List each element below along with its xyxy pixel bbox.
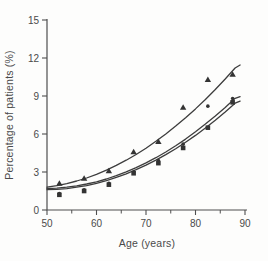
square-marker	[131, 171, 136, 176]
y-axis-title: Percentage of patients (%)	[3, 50, 15, 180]
square-marker	[181, 146, 186, 151]
scatter-chart: 036912155060708090 Percentage of patient…	[0, 0, 268, 261]
square-marker	[107, 182, 112, 187]
x-axis-title: Age (years)	[119, 237, 175, 249]
triangle-marker	[205, 76, 211, 82]
circle-marker	[231, 97, 235, 101]
x-axis-tick-label: 80	[190, 218, 202, 229]
y-axis-tick-label: 15	[28, 15, 40, 26]
circle-marker	[206, 104, 210, 108]
square-marker	[57, 193, 62, 198]
y-axis-tick-label: 3	[33, 167, 39, 178]
trend-line-circle	[47, 97, 240, 189]
x-axis-tick-label: 90	[239, 218, 251, 229]
circle-marker	[181, 142, 185, 146]
trend-line-square	[47, 101, 240, 190]
plot-area: 036912155060708090	[28, 15, 251, 230]
x-axis-tick-label: 60	[91, 218, 103, 229]
x-axis-tick-label: 50	[41, 218, 53, 229]
trend-line-triangle	[47, 65, 240, 187]
triangle-marker	[56, 180, 62, 186]
y-axis-tick-label: 0	[33, 205, 39, 216]
triangle-marker	[180, 104, 186, 110]
square-marker	[156, 161, 161, 166]
chart-figure: 036912155060708090 Percentage of patient…	[0, 0, 268, 261]
square-marker	[206, 125, 211, 130]
x-axis-tick-label: 70	[140, 218, 152, 229]
square-marker	[82, 189, 87, 194]
square-marker	[230, 100, 235, 105]
y-axis-tick-label: 6	[33, 129, 39, 140]
y-axis-tick-label: 9	[33, 91, 39, 102]
triangle-marker	[130, 149, 136, 155]
y-axis-tick-label: 12	[28, 53, 40, 64]
